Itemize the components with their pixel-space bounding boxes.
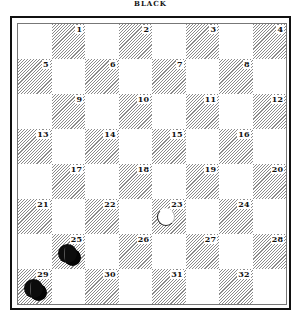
checkerboard: 1234567891011121314151617181920212223242…	[18, 24, 286, 304]
square-20[interactable]: 20	[253, 164, 287, 199]
light-square	[253, 59, 287, 94]
square-9[interactable]: 9	[52, 94, 86, 129]
light-square	[186, 199, 220, 234]
square-number: 12	[271, 95, 284, 104]
black-king-piece-icon[interactable]	[58, 244, 77, 263]
light-square	[85, 164, 119, 199]
light-square	[52, 129, 86, 164]
square-19[interactable]: 19	[186, 164, 220, 199]
light-square	[52, 199, 86, 234]
square-32[interactable]: 32	[219, 269, 253, 304]
square-number: 2	[142, 25, 150, 34]
square-number: 11	[204, 95, 217, 104]
square-17[interactable]: 17	[52, 164, 86, 199]
square-15[interactable]: 15	[152, 129, 186, 164]
square-22[interactable]: 22	[85, 199, 119, 234]
square-7[interactable]: 7	[152, 59, 186, 94]
light-square	[18, 164, 52, 199]
light-square	[152, 24, 186, 59]
light-square	[18, 234, 52, 269]
square-number: 10	[137, 95, 150, 104]
square-number: 7	[176, 60, 184, 69]
light-square	[186, 269, 220, 304]
light-square	[85, 24, 119, 59]
light-square	[253, 199, 287, 234]
light-square	[52, 269, 86, 304]
light-square	[152, 234, 186, 269]
square-6[interactable]: 6	[85, 59, 119, 94]
light-square	[18, 24, 52, 59]
square-number: 32	[237, 270, 250, 279]
square-18[interactable]: 18	[119, 164, 153, 199]
square-25[interactable]: 25	[52, 234, 86, 269]
square-number: 23	[170, 200, 183, 209]
square-30[interactable]: 30	[85, 269, 119, 304]
square-number: 28	[271, 235, 284, 244]
light-square	[253, 269, 287, 304]
square-number: 1	[75, 25, 83, 34]
square-16[interactable]: 16	[219, 129, 253, 164]
light-square	[186, 59, 220, 94]
square-number: 22	[103, 200, 116, 209]
light-square	[18, 94, 52, 129]
square-1[interactable]: 1	[52, 24, 86, 59]
square-24[interactable]: 24	[219, 199, 253, 234]
light-square	[119, 199, 153, 234]
light-square	[253, 129, 287, 164]
square-number: 9	[75, 95, 83, 104]
light-square	[219, 24, 253, 59]
square-4[interactable]: 4	[253, 24, 287, 59]
light-square	[219, 94, 253, 129]
light-square	[152, 164, 186, 199]
square-10[interactable]: 10	[119, 94, 153, 129]
square-number: 27	[204, 235, 217, 244]
light-square	[85, 234, 119, 269]
light-square	[85, 94, 119, 129]
square-12[interactable]: 12	[253, 94, 287, 129]
light-square	[119, 129, 153, 164]
square-21[interactable]: 21	[18, 199, 52, 234]
square-31[interactable]: 31	[152, 269, 186, 304]
square-5[interactable]: 5	[18, 59, 52, 94]
light-square	[52, 59, 86, 94]
light-square	[119, 59, 153, 94]
square-number: 15	[170, 130, 183, 139]
square-13[interactable]: 13	[18, 129, 52, 164]
light-square	[219, 234, 253, 269]
square-number: 18	[137, 165, 150, 174]
light-square	[152, 94, 186, 129]
light-square	[119, 269, 153, 304]
square-number: 5	[42, 60, 50, 69]
square-2[interactable]: 2	[119, 24, 153, 59]
light-square	[219, 164, 253, 199]
square-number: 8	[243, 60, 251, 69]
square-number: 31	[170, 270, 183, 279]
square-number: 14	[103, 130, 116, 139]
square-8[interactable]: 8	[219, 59, 253, 94]
square-23[interactable]: 23	[152, 199, 186, 234]
square-number: 29	[36, 270, 49, 279]
square-26[interactable]: 26	[119, 234, 153, 269]
square-number: 26	[137, 235, 150, 244]
black-king-piece-icon[interactable]	[24, 279, 43, 298]
square-11[interactable]: 11	[186, 94, 220, 129]
square-number: 19	[204, 165, 217, 174]
square-28[interactable]: 28	[253, 234, 287, 269]
square-number: 4	[276, 25, 284, 34]
square-3[interactable]: 3	[186, 24, 220, 59]
square-number: 17	[70, 165, 83, 174]
square-number: 24	[237, 200, 250, 209]
square-number: 6	[109, 60, 117, 69]
square-number: 20	[271, 165, 284, 174]
square-number: 16	[237, 130, 250, 139]
white-man-piece-icon[interactable]	[157, 208, 175, 226]
square-14[interactable]: 14	[85, 129, 119, 164]
square-number: 25	[70, 235, 83, 244]
board-title: BLACK	[0, 0, 301, 8]
square-number: 21	[36, 200, 49, 209]
square-number: 3	[209, 25, 217, 34]
square-29[interactable]: 29	[18, 269, 52, 304]
light-square	[186, 129, 220, 164]
square-27[interactable]: 27	[186, 234, 220, 269]
square-number: 13	[36, 130, 49, 139]
